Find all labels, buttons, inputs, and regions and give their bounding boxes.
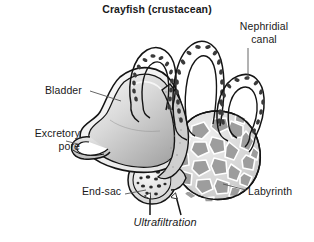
label-ultrafiltration: Ultrafiltration	[110, 216, 220, 229]
label-nephridial-canal: Nephridial canal	[216, 20, 312, 45]
ultrafiltration-arrow-labyrinth	[176, 196, 181, 215]
label-end-sac: End-sac	[82, 185, 121, 198]
label-labyrinth: Labyrinth	[248, 185, 292, 198]
label-excretory-pore: Excretory pore	[8, 127, 80, 152]
figure-title: Crayfish (crustacean)	[0, 3, 314, 16]
label-bladder: Bladder	[45, 84, 82, 97]
